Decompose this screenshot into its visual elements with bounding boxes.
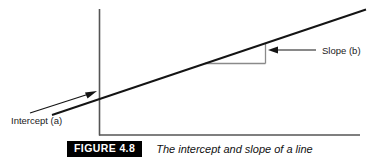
figure-caption-text: The intercept and slope of a line (156, 143, 313, 155)
slope-label: Slope (b) (322, 45, 361, 56)
intercept-label: Intercept (a) (11, 115, 62, 126)
figure-container: Intercept (a) Slope (b) FIGURE 4.8 The i… (0, 0, 382, 165)
intercept-arrow-shaft (30, 93, 92, 113)
intercept-arrow-head (85, 91, 97, 99)
figure-caption-row: FIGURE 4.8 The intercept and slope of a … (0, 139, 382, 159)
figure-number-badge: FIGURE 4.8 (67, 141, 142, 157)
slope-arrow-head (268, 47, 278, 54)
